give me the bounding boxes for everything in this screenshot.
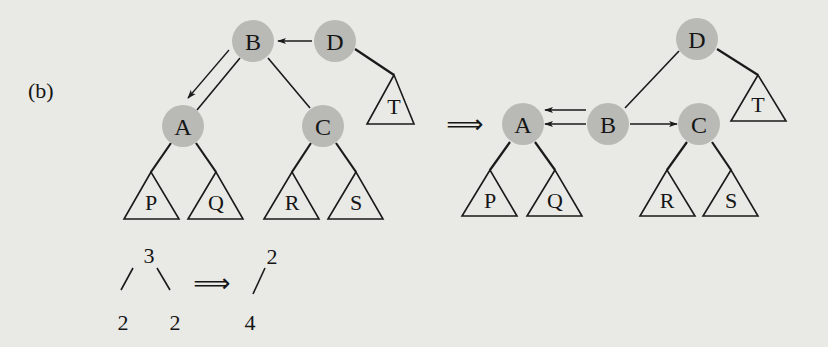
- node-label-c: C: [315, 114, 331, 140]
- node-b: B: [587, 103, 629, 145]
- node-d: D: [676, 18, 718, 60]
- subtree-label-r: R: [285, 190, 300, 215]
- node-a: A: [502, 103, 544, 145]
- subtree-label-r: R: [660, 188, 675, 213]
- node-label-a: A: [514, 112, 532, 138]
- node-label-d: D: [688, 27, 705, 53]
- after-tree: T P Q R S D A B C: [462, 18, 786, 216]
- node-label-b: B: [245, 29, 261, 55]
- node-c: C: [302, 105, 344, 147]
- node-label-d: D: [326, 29, 343, 55]
- edge-c-s: [712, 142, 731, 170]
- degree-after-edge: [253, 268, 265, 294]
- node-a: A: [162, 105, 204, 147]
- transform-arrow-icon: ⟹: [446, 109, 483, 139]
- degree-before-right-edge: [157, 268, 170, 290]
- node-b: B: [232, 20, 274, 62]
- degree-annotation: 3 2 2 ⟹ 2 4: [118, 243, 278, 335]
- subtree-label-p: P: [145, 190, 157, 215]
- node-label-c: C: [691, 112, 707, 138]
- edge-b-a: [197, 58, 240, 110]
- subtree-label-q: Q: [547, 188, 563, 213]
- edge-c-r: [292, 143, 311, 172]
- degree-before-left: 2: [118, 310, 129, 335]
- edge-a-q: [535, 142, 555, 170]
- figure-canvas: (b) T P Q R S B D: [0, 0, 828, 347]
- subtree-label-t: T: [387, 94, 401, 119]
- edge-b-c: [268, 58, 310, 108]
- subtree-label-s: S: [725, 188, 737, 213]
- node-c: C: [678, 103, 720, 145]
- edge-a-q: [196, 143, 216, 172]
- degree-after-root: 2: [267, 244, 278, 269]
- edge-c-r: [667, 142, 687, 170]
- subtree-label-p: P: [484, 188, 496, 213]
- degree-before-root: 3: [144, 243, 155, 268]
- panel-label: (b): [28, 78, 54, 103]
- degree-transform-arrow-icon: ⟹: [193, 268, 230, 298]
- edge-a-p: [490, 142, 510, 170]
- edge-c-s: [336, 143, 356, 172]
- edge-a-p: [151, 143, 171, 172]
- before-tree: T P Q R S B D A C: [124, 20, 414, 219]
- degree-before-left-edge: [121, 268, 133, 290]
- node-label-b: B: [600, 112, 616, 138]
- edge-d-t: [717, 49, 758, 75]
- subtree-label-t: T: [751, 92, 765, 117]
- subtree-label-q: Q: [208, 190, 224, 215]
- degree-after-child: 4: [245, 310, 256, 335]
- node-label-a: A: [174, 114, 192, 140]
- degree-before-right: 2: [170, 310, 181, 335]
- subtree-label-s: S: [350, 190, 362, 215]
- tree-diagram: (b) T P Q R S B D: [0, 0, 828, 347]
- node-d: D: [314, 20, 356, 62]
- edge-d-t: [355, 49, 394, 75]
- edge-d-b: [625, 51, 679, 108]
- pointer-b-to-a: [188, 50, 229, 98]
